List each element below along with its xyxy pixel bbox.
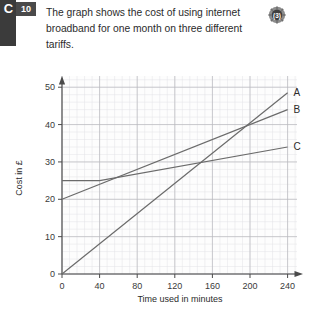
y-tick-label: 40 [45, 120, 55, 130]
y-tick-label: 0 [50, 269, 55, 279]
question-text: The graph shows the cost of using intern… [46, 5, 262, 54]
y-tick-label: 30 [45, 157, 55, 167]
x-tick-label: 240 [280, 281, 295, 291]
question-number-box: 10 [16, 2, 36, 16]
y-tick-label: 50 [45, 82, 55, 92]
marks-suffix [296, 10, 302, 20]
y-tick-label: 10 [45, 232, 55, 242]
series-label-b: B [294, 104, 301, 115]
gear-marks-icon: (3) [268, 6, 286, 24]
series-label-a: A [294, 87, 301, 98]
x-tick-label: 80 [132, 281, 142, 291]
question-badge: C [0, 0, 16, 46]
question-grade-letter: C [2, 1, 15, 16]
y-tick-label: 20 [45, 194, 55, 204]
x-axis-arrow [295, 271, 304, 277]
x-tick-label: 0 [59, 281, 64, 291]
cost-vs-time-line-chart: 0408012016020024001020304050 ABC Time us… [0, 56, 309, 319]
x-tick-label: 160 [205, 281, 220, 291]
x-tick-label: 40 [95, 281, 105, 291]
svg-text:(3): (3) [273, 12, 281, 20]
x-tick-label: 120 [167, 281, 182, 291]
series-label-c: C [294, 141, 301, 152]
x-axis-title: Time used in minutes [137, 294, 223, 304]
question-number: 10 [16, 2, 36, 16]
x-tick-label: 200 [242, 281, 257, 291]
y-axis-title: Cost in £ [14, 160, 24, 196]
